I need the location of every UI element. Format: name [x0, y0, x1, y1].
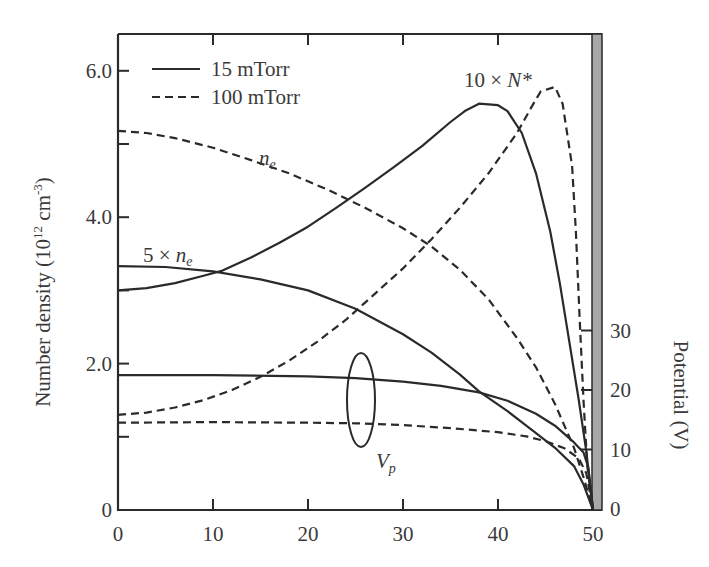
y-tick-label: 2.0 [86, 352, 112, 376]
y-tick-label: 0 [102, 498, 113, 522]
plot-frame [118, 34, 602, 510]
y2-tick-label: 20 [610, 378, 631, 402]
series-3 [118, 87, 593, 510]
x-axis: 01020304050 [113, 34, 604, 546]
y-tick-label: 4.0 [86, 205, 112, 229]
wall-bar [592, 34, 602, 510]
x-tick-label: 50 [583, 522, 604, 546]
annotation-vp: Vp [376, 449, 396, 476]
wall-rect [592, 34, 602, 510]
y-axis-title: Number density (1012 cm-3) [30, 177, 55, 407]
series-1 [118, 104, 593, 510]
annotation-ne-dashed: ne [259, 146, 276, 172]
annotations: ne 5 × ne 10 × N* Vp [143, 68, 532, 476]
x-tick-label: 20 [298, 522, 319, 546]
series-0 [118, 266, 593, 510]
x-tick-label: 10 [203, 522, 224, 546]
x-tick-label: 40 [488, 522, 509, 546]
annotation-5x-ne: 5 × ne [143, 243, 193, 269]
x-tick-label: 0 [113, 522, 124, 546]
y2-tick-label: 0 [610, 497, 621, 521]
legend: 15 mTorr 100 mTorr [152, 57, 300, 109]
vp-ellipse [347, 353, 375, 447]
data-curves [118, 87, 593, 510]
annotation-10x-nstar: 10 × N* [464, 68, 532, 92]
y2-axis-title: Potential (V) [669, 340, 693, 449]
series-2 [118, 131, 593, 510]
y-tick-label: 6.0 [86, 59, 112, 83]
chart: 01020304050 02.04.06.0 0102030 15 mTorr … [0, 0, 709, 567]
series-5 [118, 422, 593, 509]
y-axis-left: 02.04.06.0 [86, 59, 129, 522]
legend-label-100mtorr: 100 mTorr [211, 85, 300, 109]
x-tick-label: 30 [393, 522, 414, 546]
axis-lines [118, 34, 602, 510]
y2-tick-label: 30 [610, 319, 631, 343]
y2-tick-label: 10 [610, 438, 631, 462]
legend-label-15mtorr: 15 mTorr [211, 57, 289, 81]
